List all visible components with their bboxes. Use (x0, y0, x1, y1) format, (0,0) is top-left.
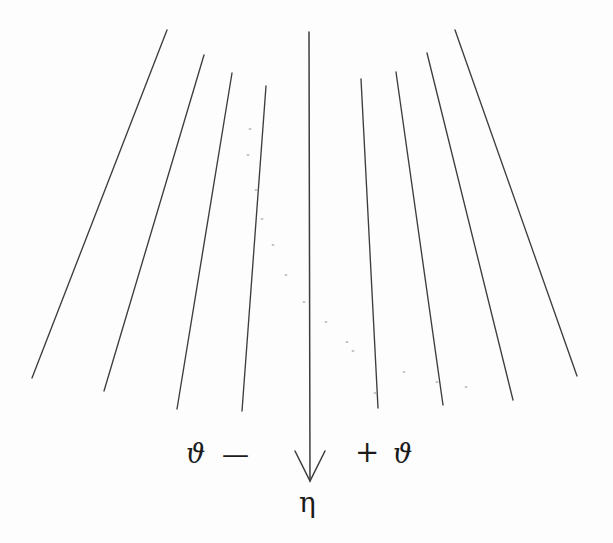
axis-arrow-shaft (309, 32, 310, 481)
scan-speckle (374, 392, 377, 394)
scan-speckle (249, 128, 252, 130)
scan-speckle (303, 301, 306, 303)
scan-speckle (285, 274, 288, 276)
scan-speckle (465, 386, 468, 388)
scan-speckle (352, 350, 355, 352)
scan-speckle (346, 341, 349, 343)
figure-canvas: ϑ — + ϑ η (0, 0, 613, 543)
scan-speckle (436, 381, 439, 383)
scan-speckle (403, 371, 406, 373)
scan-speckle (272, 244, 275, 246)
scan-speckle (325, 321, 328, 323)
scan-speckle (247, 154, 250, 156)
ray-fan-diagram (0, 0, 613, 543)
scan-speckle (261, 218, 264, 220)
paper-background (0, 0, 613, 543)
scan-speckle (255, 189, 258, 191)
